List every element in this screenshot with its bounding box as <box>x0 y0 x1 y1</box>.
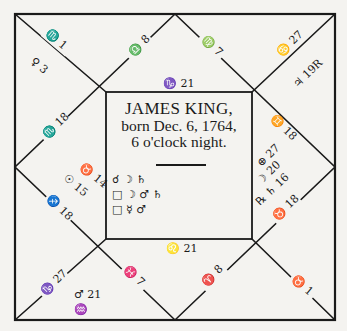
cusp-label: ♑ 21 <box>163 78 195 89</box>
planet-label: ♒ <box>74 304 88 315</box>
birth-time: 6 o'clock night. <box>106 134 252 150</box>
chart-title: JAMES KING, born Dec. 6, 1764, 6 o'clock… <box>106 100 252 150</box>
birth-date: born Dec. 6, 1764, <box>106 118 252 134</box>
cusp-label: ♌ 21 <box>166 243 198 254</box>
aspect-row: ☌ ☽ ♄ <box>112 172 162 187</box>
divider-rule <box>156 164 206 166</box>
chart-center-box: JAMES KING, born Dec. 6, 1764, 6 o'clock… <box>106 92 252 239</box>
aspect-list: ☌ ☽ ♄ □ ☽ ♂ ♄ □ ☿ ♂ <box>112 172 162 217</box>
planet-label: ♂ 21 <box>74 289 101 300</box>
aspect-row: □ ☿ ♂ <box>112 202 162 217</box>
aspect-row: □ ☽ ♂ ♄ <box>112 187 162 202</box>
subject-name: JAMES KING, <box>106 100 252 118</box>
